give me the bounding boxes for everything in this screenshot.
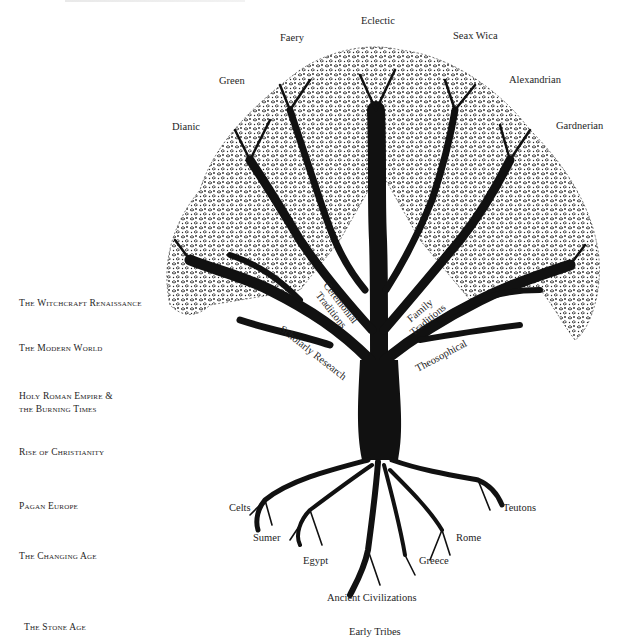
label-eclectic: Eclectic bbox=[361, 16, 395, 27]
era-rise-of-christianity: Rise of Christianity bbox=[19, 446, 104, 459]
label-green: Green bbox=[219, 76, 245, 87]
era-stone-age: The Stone Age bbox=[24, 621, 86, 634]
label-greece: Greece bbox=[419, 556, 449, 567]
era-modern-world: The Modern World bbox=[19, 342, 103, 355]
trunk bbox=[358, 360, 401, 460]
era-witchcraft-renaissance: The Witchcraft Renaissance bbox=[19, 297, 142, 310]
tree-illustration bbox=[0, 0, 627, 638]
era-changing-age: The Changing Age bbox=[19, 550, 97, 563]
label-celts: Celts bbox=[229, 503, 251, 514]
era-holy-roman-empire-line2: the Burning Times bbox=[19, 403, 113, 416]
label-dianic: Dianic bbox=[172, 122, 200, 133]
label-alexandrian: Alexandrian bbox=[509, 75, 561, 86]
label-faery: Faery bbox=[280, 33, 304, 44]
label-sumer: Sumer bbox=[253, 533, 280, 544]
era-holy-roman-empire-line1: Holy Roman Empire & bbox=[19, 390, 113, 403]
label-early-tribes: Early Tribes bbox=[349, 627, 401, 638]
label-seax-wica: Seax Wica bbox=[453, 31, 498, 42]
label-teutons: Teutons bbox=[503, 503, 536, 514]
roots bbox=[250, 460, 502, 595]
era-holy-roman-empire: Holy Roman Empire & the Burning Times bbox=[19, 390, 113, 416]
label-rome: Rome bbox=[456, 533, 481, 544]
label-gardnerian: Gardnerian bbox=[556, 121, 603, 132]
label-egypt: Egypt bbox=[303, 556, 328, 567]
label-ancient-civilizations: Ancient Civilizations bbox=[327, 593, 417, 604]
era-pagan-europe: Pagan Europe bbox=[19, 500, 78, 513]
